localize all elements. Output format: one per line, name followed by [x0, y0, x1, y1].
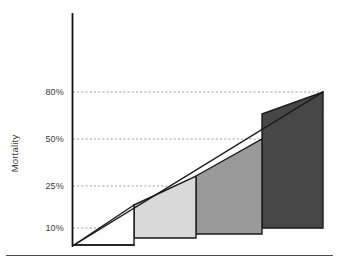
y-tick-label-50: 50% [30, 134, 64, 144]
y-axis-title: Mortality [9, 124, 20, 184]
y-tick-label-80: 80% [30, 87, 64, 97]
y-tick-label-10: 10% [30, 223, 64, 233]
area-segment-2 [134, 176, 196, 238]
figure-container: Mortality 80% 50% 25% 10% [0, 0, 339, 262]
area-segment-3 [196, 139, 262, 234]
y-tick-label-25: 25% [30, 181, 64, 191]
area-segment-4 [262, 92, 323, 228]
